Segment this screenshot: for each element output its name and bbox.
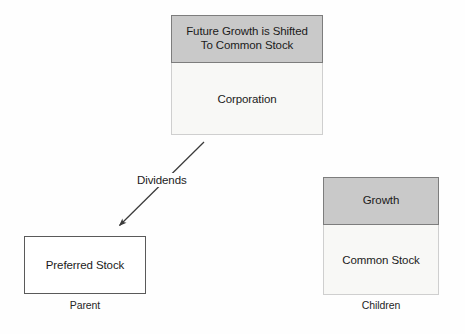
corporation-header-text: Future Growth is Shifted To Common Stock (186, 25, 308, 52)
growth-header-box: Growth (323, 177, 439, 225)
common-stock-body-box: Common Stock (323, 225, 439, 295)
corporation-header-line-2: To Common Stock (201, 39, 293, 51)
common-stock-body-label: Common Stock (342, 254, 419, 266)
preferred-stock-box: Preferred Stock (24, 236, 146, 294)
dividends-edge-label: Dividends (133, 173, 191, 187)
corporation-header-box: Future Growth is Shifted To Common Stock (171, 15, 323, 63)
caption-parent: Parent (24, 299, 146, 311)
corporation-body-box: Corporation (171, 63, 323, 135)
caption-children: Children (323, 299, 439, 311)
corporation-body-label: Corporation (218, 93, 277, 105)
diagram-canvas: Future Growth is Shifted To Common Stock… (0, 0, 465, 334)
preferred-stock-label: Preferred Stock (46, 259, 124, 271)
corporation-header-line-1: Future Growth is Shifted (186, 25, 308, 37)
growth-header-label: Growth (363, 194, 399, 208)
